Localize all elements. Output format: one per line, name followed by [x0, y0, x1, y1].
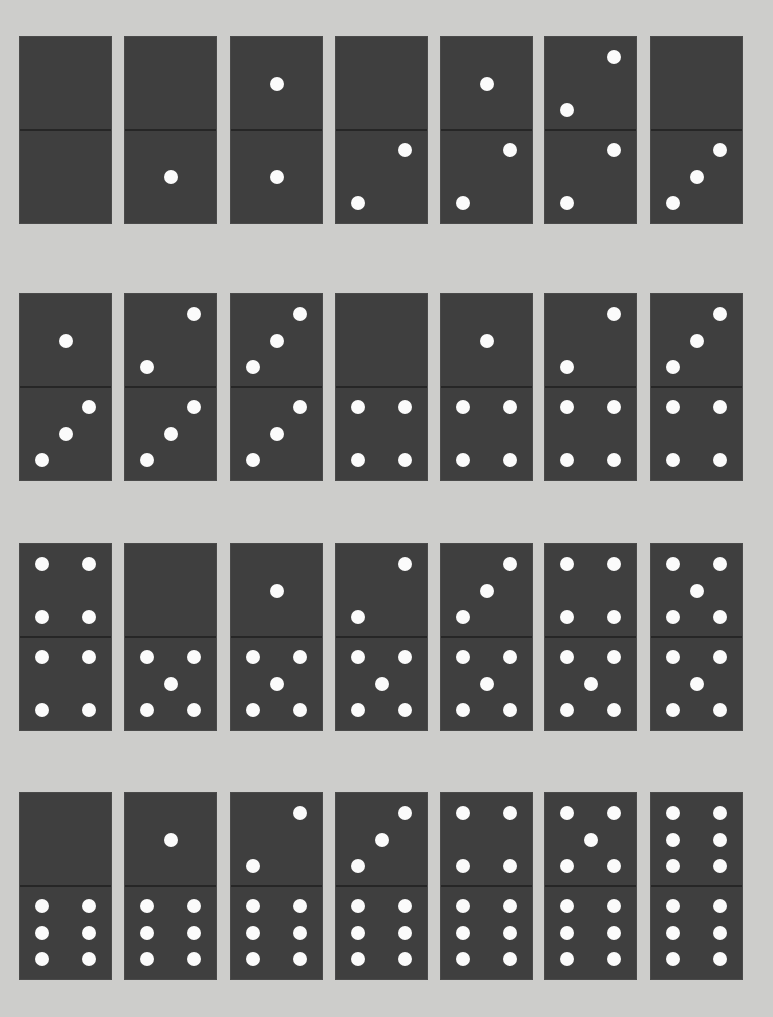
pip-dot-icon	[270, 77, 284, 91]
pip-dot-icon	[293, 806, 307, 820]
pip-dot-icon	[456, 926, 470, 940]
pip-dot-icon	[375, 833, 389, 847]
domino-2-2	[545, 37, 636, 223]
domino-half-bottom	[441, 886, 532, 979]
pip-dot-icon	[246, 952, 260, 966]
pip-dot-icon	[246, 899, 260, 913]
pip-dot-icon	[713, 703, 727, 717]
pip-dot-icon	[503, 926, 517, 940]
pip-dot-icon	[503, 453, 517, 467]
pip-dot-icon	[187, 703, 201, 717]
domino-half-top	[20, 37, 111, 130]
pip-dot-icon	[351, 196, 365, 210]
domino-half-bottom	[231, 130, 322, 223]
pip-dot-icon	[713, 899, 727, 913]
domino-half-top	[441, 793, 532, 886]
pip-dot-icon	[560, 103, 574, 117]
pip-dot-icon	[713, 833, 727, 847]
pip-dot-icon	[293, 926, 307, 940]
domino-1-4	[441, 294, 532, 480]
pip-dot-icon	[351, 400, 365, 414]
pip-dot-icon	[35, 899, 49, 913]
pip-dot-icon	[375, 677, 389, 691]
domino-3-3	[231, 294, 322, 480]
domino-divider	[336, 129, 427, 131]
pip-dot-icon	[560, 926, 574, 940]
pip-dot-icon	[666, 806, 680, 820]
domino-half-top	[336, 294, 427, 387]
domino-half-top	[231, 294, 322, 387]
pip-dot-icon	[82, 400, 96, 414]
pip-dot-icon	[690, 677, 704, 691]
pip-dot-icon	[270, 427, 284, 441]
domino-3-4	[651, 294, 742, 480]
domino-half-top	[20, 544, 111, 637]
pip-dot-icon	[560, 400, 574, 414]
pip-dot-icon	[456, 703, 470, 717]
pip-dot-icon	[666, 400, 680, 414]
domino-4-5	[545, 544, 636, 730]
pip-dot-icon	[187, 307, 201, 321]
pip-dot-icon	[560, 952, 574, 966]
domino-half-bottom	[441, 637, 532, 730]
domino-half-top	[125, 37, 216, 130]
domino-half-top	[231, 793, 322, 886]
pip-dot-icon	[480, 77, 494, 91]
domino-divider	[231, 129, 322, 131]
pip-dot-icon	[503, 806, 517, 820]
pip-dot-icon	[140, 360, 154, 374]
pip-dot-icon	[456, 196, 470, 210]
domino-half-top	[336, 544, 427, 637]
pip-dot-icon	[503, 952, 517, 966]
pip-dot-icon	[456, 952, 470, 966]
pip-dot-icon	[140, 899, 154, 913]
pip-dot-icon	[607, 952, 621, 966]
pip-dot-icon	[713, 557, 727, 571]
domino-half-bottom	[20, 387, 111, 480]
domino-half-bottom	[125, 637, 216, 730]
pip-dot-icon	[164, 170, 178, 184]
domino-divider	[20, 129, 111, 131]
domino-divider	[125, 386, 216, 388]
domino-half-bottom	[545, 637, 636, 730]
pip-dot-icon	[293, 307, 307, 321]
pip-dot-icon	[607, 557, 621, 571]
pip-dot-icon	[82, 926, 96, 940]
pip-dot-icon	[713, 143, 727, 157]
pip-dot-icon	[607, 610, 621, 624]
pip-dot-icon	[713, 307, 727, 321]
pip-dot-icon	[713, 650, 727, 664]
domino-half-top	[545, 793, 636, 886]
pip-dot-icon	[456, 899, 470, 913]
domino-half-top	[651, 294, 742, 387]
domino-half-top	[231, 37, 322, 130]
pip-dot-icon	[351, 952, 365, 966]
pip-dot-icon	[246, 926, 260, 940]
pip-dot-icon	[82, 650, 96, 664]
domino-half-bottom	[125, 130, 216, 223]
domino-half-top	[125, 793, 216, 886]
pip-dot-icon	[270, 584, 284, 598]
pip-dot-icon	[351, 453, 365, 467]
domino-divider	[651, 386, 742, 388]
domino-divider	[651, 636, 742, 638]
pip-dot-icon	[398, 926, 412, 940]
pip-dot-icon	[82, 703, 96, 717]
pip-dot-icon	[503, 650, 517, 664]
pip-dot-icon	[503, 557, 517, 571]
pip-dot-icon	[607, 143, 621, 157]
pip-dot-icon	[503, 400, 517, 414]
domino-half-top	[20, 793, 111, 886]
pip-dot-icon	[293, 400, 307, 414]
pip-dot-icon	[713, 610, 727, 624]
pip-dot-icon	[713, 859, 727, 873]
pip-dot-icon	[59, 427, 73, 441]
domino-divider	[545, 636, 636, 638]
domino-half-bottom	[336, 886, 427, 979]
pip-dot-icon	[82, 557, 96, 571]
domino-half-bottom	[545, 886, 636, 979]
pip-dot-icon	[713, 400, 727, 414]
pip-dot-icon	[607, 806, 621, 820]
pip-dot-icon	[560, 360, 574, 374]
domino-divider	[125, 636, 216, 638]
